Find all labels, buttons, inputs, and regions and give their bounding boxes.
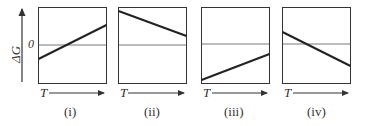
- panel-ii: [119, 8, 187, 94]
- panel-label-ii: (ii): [144, 104, 160, 120]
- zero-label: 0: [28, 37, 34, 52]
- y-axis-label: ΔG: [8, 46, 24, 63]
- t-label-ii: T: [120, 85, 127, 101]
- panel-iii: [202, 8, 270, 94]
- panel-label-iv: (iv): [307, 104, 326, 120]
- t-label-iv: T: [284, 85, 291, 101]
- panel-iv: [283, 8, 351, 94]
- delta-g-line: [119, 11, 187, 36]
- delta-g-line: [283, 32, 351, 66]
- delta-g-line: [39, 25, 107, 59]
- panel-i: [39, 8, 107, 94]
- delta-g-line: [202, 54, 270, 80]
- panel-label-i: (i): [64, 104, 76, 120]
- t-label-iii: T: [203, 85, 210, 101]
- t-label-i: T: [40, 85, 47, 101]
- panel-label-iii: (iii): [224, 104, 244, 120]
